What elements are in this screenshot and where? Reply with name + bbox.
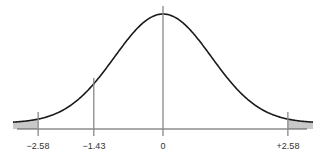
tick-label-pos-2-58: +2.58 [277, 141, 300, 151]
normal-distribution-chart: −2.58 −1.43 0 +2.58 [0, 0, 320, 157]
critical-value-lines [38, 6, 288, 136]
tick-label-neg-1-43: −1.43 [83, 141, 106, 151]
tick-label-neg-2-58: −2.58 [27, 141, 50, 151]
tick-label-zero: 0 [160, 141, 165, 151]
